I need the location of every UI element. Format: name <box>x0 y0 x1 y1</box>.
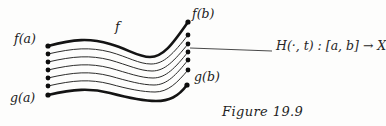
curve-g <box>48 85 187 101</box>
endpoint-dot-left-4 <box>46 68 51 73</box>
endpoint-dot-left-3 <box>46 60 51 65</box>
homotopy-leader-line <box>190 48 272 51</box>
label-g-of-b: g(b) <box>194 71 220 84</box>
endpoint-dot-right-gb <box>184 82 189 87</box>
left-endpoint-dots <box>45 43 50 97</box>
figure-caption: Figure 19.9 <box>222 104 303 119</box>
endpoint-dot-left-2 <box>46 52 51 57</box>
figure-19-9: f(a) g(a) f(b) g(b) f H(·, t) : [a, b] →… <box>0 0 386 126</box>
endpoint-dot-right-5 <box>186 58 191 63</box>
curve-h-t4- <box>48 60 188 85</box>
endpoint-dot-right-fb <box>185 19 190 24</box>
endpoint-dot-left-ga <box>45 92 50 97</box>
label-homotopy-map: H(·, t) : [a, b] → X <box>276 40 386 53</box>
endpoint-dot-right-2 <box>186 33 191 38</box>
endpoint-dot-right-4 <box>186 50 191 55</box>
label-g-of-a: g(a) <box>10 92 35 105</box>
label-curve-f: f <box>115 20 120 33</box>
label-f-of-a: f(a) <box>14 33 36 46</box>
endpoint-dot-left-5 <box>46 76 51 81</box>
endpoint-dot-right-6 <box>186 68 191 73</box>
endpoint-dot-left-6 <box>46 84 51 89</box>
endpoint-dot-left-fa <box>45 43 50 48</box>
right-endpoint-dots <box>184 19 190 87</box>
endpoint-dot-right-3 <box>186 42 191 47</box>
label-f-of-b: f(b) <box>192 8 214 21</box>
